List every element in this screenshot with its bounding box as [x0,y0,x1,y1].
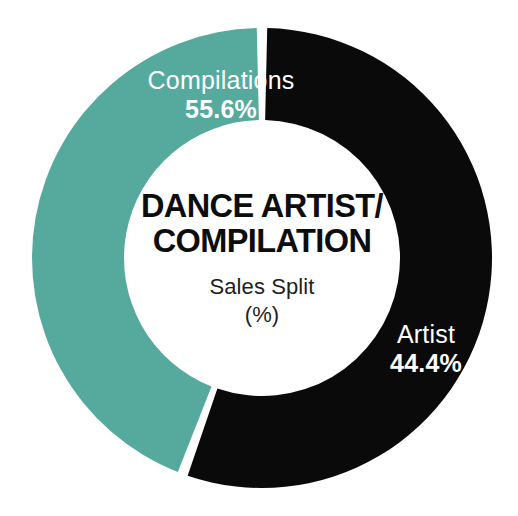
donut-chart: DANCE ARTIST/ COMPILATION Sales Split (%… [0,0,518,516]
donut-graphic [0,0,518,516]
